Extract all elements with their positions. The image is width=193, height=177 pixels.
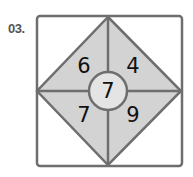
bottom-left-number: 7 — [77, 103, 90, 127]
bottom-right-number: 9 — [126, 103, 139, 127]
top-left-number: 6 — [77, 54, 90, 78]
top-right-number: 4 — [126, 54, 139, 78]
center-number: 7 — [101, 79, 114, 103]
number-diamond-diagram: 6 4 7 7 9 — [0, 0, 193, 177]
